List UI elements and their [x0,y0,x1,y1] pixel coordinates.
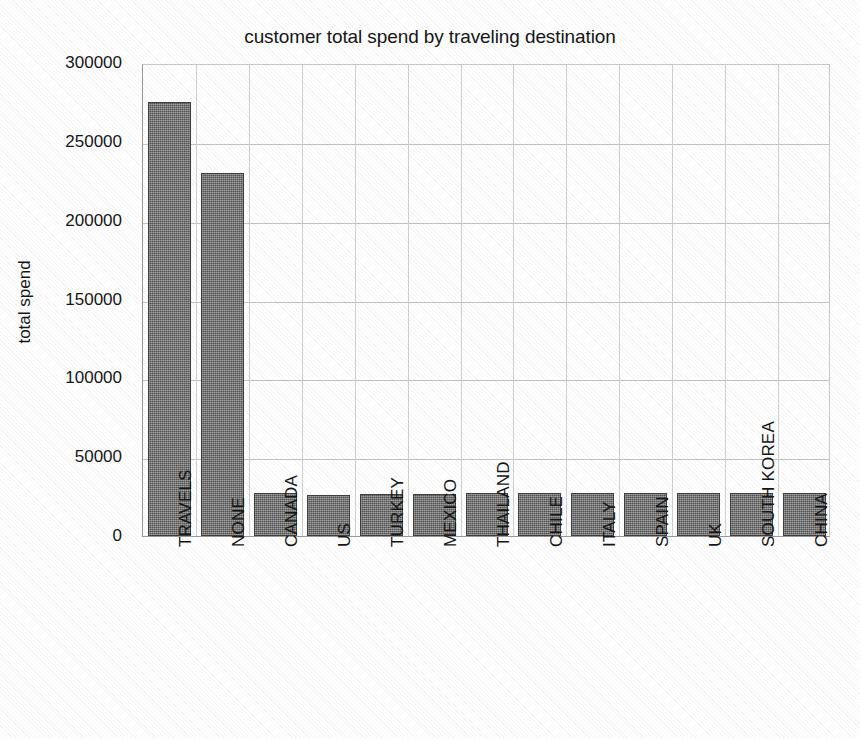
x-tick-label: SOUTH KOREA [759,421,779,547]
plot-area [142,64,830,537]
x-tick-label: CHINA [812,493,832,547]
gridline-vertical [725,65,726,536]
x-tick-label: THAILAND [494,461,514,547]
x-tick-label: CHILE [547,496,567,547]
x-tick-label: US [335,523,355,547]
gridline-vertical [249,65,250,536]
x-tick-label: CANADA [282,475,302,547]
x-tick-label: TURKEY [388,477,408,547]
chart-title: customer total spend by traveling destin… [0,26,860,48]
x-tick-label: MEXICO [441,479,461,547]
x-tick-label: ITALY [600,501,620,547]
y-axis-label: total spend [15,242,35,362]
gridline-horizontal [143,223,829,224]
x-tick-label: NONE [229,497,249,547]
gridline-horizontal [143,302,829,303]
bar-none [201,173,244,536]
gridline-horizontal [143,380,829,381]
y-tick-label: 250000 [0,132,131,152]
gridline-horizontal [143,144,829,145]
gridline-vertical [619,65,620,536]
y-tick-label: 0 [0,526,131,546]
x-tick-label: SPAIN [653,496,673,547]
gridline-vertical [461,65,462,536]
y-tick-label: 200000 [0,211,131,231]
y-tick-label: 50000 [0,447,131,467]
y-tick-label: 300000 [0,53,131,73]
x-tick-label: TRAVELS [176,469,196,547]
y-tick-label: 100000 [0,368,131,388]
x-tick-label: UK [706,523,726,547]
bar-chart-figure: customer total spend by traveling destin… [0,0,860,739]
gridline-horizontal [143,459,829,460]
gridline-vertical [196,65,197,536]
gridline-vertical [302,65,303,536]
gridline-vertical [672,65,673,536]
gridline-vertical [408,65,409,536]
gridline-vertical [355,65,356,536]
gridline-vertical [566,65,567,536]
